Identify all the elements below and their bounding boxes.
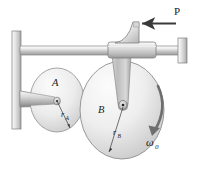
right-wall-support [178,38,187,63]
mechanics-figure: P A r A B r B ω 0 [0,0,203,169]
label-radius-a-subscript: A [65,115,70,121]
label-omega: ω [146,136,154,148]
label-omega-subscript: 0 [155,143,159,151]
collar-fin-tab [115,22,139,43]
left-wall-column [12,31,21,129]
hub-b [119,100,127,109]
hub-b-center-dot [122,104,125,107]
left-wall-support [12,31,21,129]
right-wall-block [178,38,187,63]
label-radius-b-subscript: B [118,133,122,139]
label-disc-a: A [51,77,59,88]
label-disc-b: B [98,104,105,115]
sliding-collar [108,42,156,58]
label-force-p: P [174,5,180,17]
collar-body [108,42,156,58]
figure-canvas: P A r A B r B ω 0 [0,0,203,169]
fin-top-edge [133,22,139,27]
